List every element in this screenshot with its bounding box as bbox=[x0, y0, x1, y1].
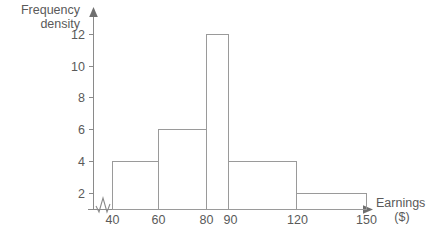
histogram-bar-120-150 bbox=[297, 193, 367, 209]
y-tick-label-2: 2 bbox=[78, 187, 85, 201]
histogram-bar-80-90 bbox=[207, 34, 229, 209]
x-axis-title-unit: ($) bbox=[376, 210, 428, 224]
histogram-bar-60-80 bbox=[159, 130, 207, 210]
y-tick-label-4: 4 bbox=[78, 155, 85, 169]
histogram-bars bbox=[113, 34, 367, 209]
y-axis-arrow-icon bbox=[89, 7, 98, 17]
y-axis-title: Frequency density bbox=[2, 3, 80, 31]
x-tick-labels: 40 60 80 90 120 150 bbox=[106, 213, 377, 227]
chart-canvas: 2 4 6 8 10 12 40 60 80 90 120 150 bbox=[0, 0, 437, 232]
x-tick-label-60: 60 bbox=[152, 213, 166, 227]
y-axis-title-line2: density bbox=[40, 17, 80, 31]
x-tick-label-120: 120 bbox=[287, 213, 308, 227]
x-tick-marks bbox=[113, 203, 367, 210]
y-tick-label-8: 8 bbox=[78, 91, 85, 105]
x-tick-label-90: 90 bbox=[224, 213, 238, 227]
histogram-bar-40-60 bbox=[113, 162, 159, 210]
y-tick-marks bbox=[89, 34, 94, 193]
x-axis-title-main: Earnings bbox=[376, 196, 425, 210]
histogram-figure: 2 4 6 8 10 12 40 60 80 90 120 150 bbox=[0, 0, 437, 232]
histogram-bar-90-120 bbox=[229, 162, 297, 210]
x-tick-label-80: 80 bbox=[200, 213, 214, 227]
x-tick-label-40: 40 bbox=[106, 213, 120, 227]
y-tick-labels: 2 4 6 8 10 12 bbox=[71, 28, 85, 201]
y-axis-title-line1: Frequency bbox=[21, 3, 80, 17]
x-axis-title: Earnings ($) bbox=[376, 196, 436, 224]
x-tick-label-150: 150 bbox=[356, 213, 377, 227]
y-tick-label-10: 10 bbox=[71, 60, 85, 74]
y-tick-label-6: 6 bbox=[78, 123, 85, 137]
